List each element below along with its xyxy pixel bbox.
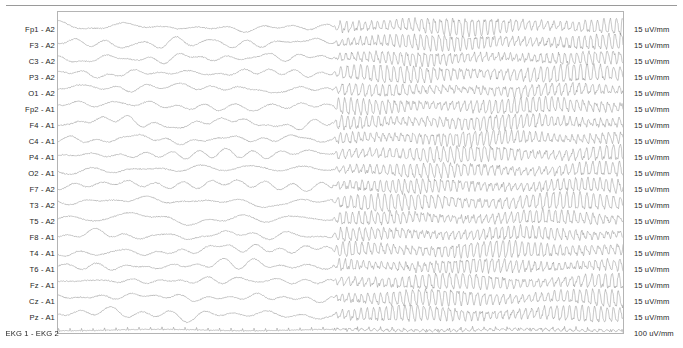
channel-label: Fp1 - A2 (25, 25, 55, 34)
channel-label: T5 - A2 (29, 217, 55, 226)
channel-label: C4 - A1 (29, 137, 55, 146)
channel-scale-label: 15 uV/mm (634, 233, 669, 242)
channel-label: O1 - A2 (28, 89, 55, 98)
channel-scale-label: 15 uV/mm (634, 297, 669, 306)
channel-scale-label: 15 uV/mm (634, 137, 669, 146)
channel-scale-label: 15 uV/mm (634, 281, 669, 290)
channel-label: F7 - A2 (29, 185, 55, 194)
channel-scale-label: 15 uV/mm (634, 265, 669, 274)
eeg-waveform-canvas (58, 12, 623, 333)
channel-scale-label: 15 uV/mm (634, 249, 669, 258)
channel-label: F3 - A2 (29, 41, 55, 50)
eeg-trace-plot[interactable] (57, 11, 624, 334)
header-divider (6, 5, 677, 6)
channel-scale-label: 15 uV/mm (634, 201, 669, 210)
channel-scale-label: 15 uV/mm (634, 121, 669, 130)
channel-label: F4 - A1 (29, 121, 55, 130)
channel-scale-label: 15 uV/mm (634, 41, 669, 50)
channel-scale-label: 15 uV/mm (634, 25, 669, 34)
channel-scale-label: 15 uV/mm (634, 185, 669, 194)
channel-label: C3 - A2 (29, 57, 55, 66)
channel-label: Cz - A1 (29, 297, 55, 306)
channel-label: T3 - A2 (29, 201, 55, 210)
channel-scale-label: 15 uV/mm (634, 105, 669, 114)
channel-scale-label: 15 uV/mm (634, 313, 669, 322)
channel-scale-label: 15 uV/mm (634, 153, 669, 162)
channel-scale-label: 15 uV/mm (634, 217, 669, 226)
channel-label: O2 - A1 (28, 169, 55, 178)
channel-scale-label: 15 uV/mm (634, 89, 669, 98)
channel-label: P4 - A1 (29, 153, 55, 162)
channel-label: T6 - A1 (29, 265, 55, 274)
channel-scale-label: 100 uV/mm (634, 329, 674, 338)
channel-scale-label: 15 uV/mm (634, 169, 669, 178)
channel-label: EKG 1 - EKG 2 (6, 329, 59, 338)
channel-label: F8 - A1 (29, 233, 55, 242)
channel-label-column: Fp1 - A2F3 - A2C3 - A2P3 - A2O1 - A2Fp2 … (0, 12, 58, 334)
channel-label: Fp2 - A1 (25, 105, 55, 114)
scale-label-column: 15 uV/mm15 uV/mm15 uV/mm15 uV/mm15 uV/mm… (630, 12, 683, 334)
channel-label: T4 - A1 (29, 249, 55, 258)
eeg-recording-page: Fp1 - A2F3 - A2C3 - A2P3 - A2O1 - A2Fp2 … (0, 0, 683, 348)
channel-scale-label: 15 uV/mm (634, 73, 669, 82)
channel-label: Fz - A1 (30, 281, 55, 290)
channel-label: P3 - A2 (29, 73, 55, 82)
channel-scale-label: 15 uV/mm (634, 57, 669, 66)
channel-label: Pz - A1 (29, 313, 55, 322)
